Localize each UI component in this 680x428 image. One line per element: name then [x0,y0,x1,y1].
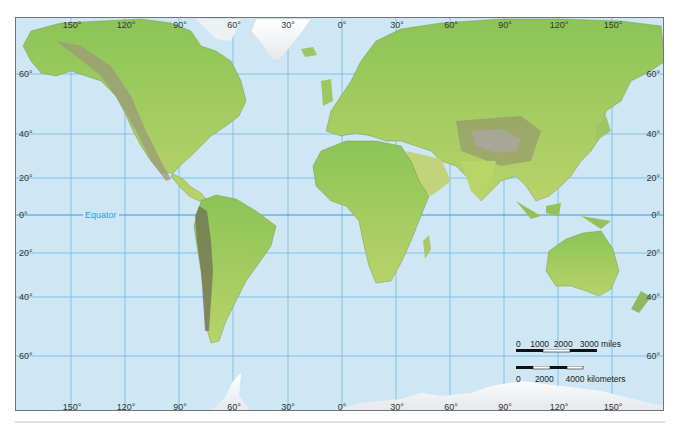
lat-label-right-40s: 40° [646,292,660,302]
india [461,161,496,201]
lon-label-top-150e: 150° [604,20,623,30]
lon-label-bottom-30w: 30° [281,402,295,411]
lat-label-left-40s: 40° [19,292,33,302]
lon-label-bottom-150e: 150° [604,402,623,411]
lon-label-bottom-60e: 60° [444,402,458,411]
madagascar [423,235,431,259]
lat-label-left-20n: 20° [19,173,33,183]
lon-label-top-120e: 120° [550,20,569,30]
lon-label-top-60w: 60° [227,20,241,30]
lon-label-bottom-90w: 90° [173,402,187,411]
world-map: 150° 120° 90° 60° 30° 0° 30° 60° 90° 120… [15,17,664,411]
australia [546,231,619,296]
scale-bar-miles [516,349,598,353]
lat-label-right-20n: 20° [646,173,660,183]
british-isles [321,79,333,106]
lat-label-right-0: 0° [651,210,660,220]
lon-label-bottom-60w: 60° [227,402,241,411]
africa [313,141,429,283]
lat-label-left-40n: 40° [19,129,33,139]
lon-label-top-0: 0° [338,20,347,30]
lat-label-right-60n: 60° [646,69,660,79]
lon-label-top-60e: 60° [444,20,458,30]
lat-label-right-40n: 40° [646,129,660,139]
lon-label-bottom-90e: 90° [498,402,512,411]
lon-label-top-30e: 30° [390,20,404,30]
equator-label: Equator [83,210,119,220]
lon-label-top-30w: 30° [281,20,295,30]
lat-label-right-20s: 20° [646,248,660,258]
lon-label-top-120w: 120° [117,20,136,30]
lon-label-bottom-0: 0° [338,402,347,411]
scale-bar-kilometers [516,366,584,370]
lon-label-top-90e: 90° [498,20,512,30]
iceland [301,47,317,57]
lon-label-bottom-30e: 30° [390,402,404,411]
lon-label-bottom-120e: 120° [550,402,569,411]
scale-kilometers-label: 0 2000 4000 kilometers [516,374,626,384]
lon-label-top-90w: 90° [173,20,187,30]
lat-label-left-60s: 60° [19,351,33,361]
lat-label-left-0: 0° [19,210,28,220]
lat-label-left-20s: 20° [19,248,33,258]
scale-miles-label: 0 1000 2000 3000 miles [516,339,621,349]
lon-label-top-150w: 150° [63,20,82,30]
lon-label-bottom-150w: 150° [63,402,82,411]
page-divider [15,421,665,423]
lat-label-left-60n: 60° [19,69,33,79]
lat-label-right-60s: 60° [646,351,660,361]
lon-label-bottom-120w: 120° [117,402,136,411]
